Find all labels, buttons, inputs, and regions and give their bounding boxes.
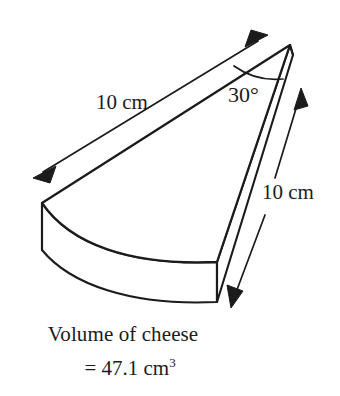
label-radius-10cm: 10 cm — [96, 92, 148, 113]
caption-volume-value: = 47.1 cm3 — [0, 356, 246, 381]
cheese-volume-figure: 10 cm 10 cm 30° Volume of cheese = 47.1 … — [0, 0, 340, 396]
radius-arrowhead-lower-left — [33, 166, 56, 183]
caption-volume-value-text: = 47.1 cm — [84, 356, 169, 380]
caption-volume-exponent: 3 — [169, 355, 176, 370]
depth-arrowhead-upper — [294, 88, 308, 110]
label-depth-10cm: 10 cm — [262, 182, 314, 203]
caption-volume-of-cheese: Volume of cheese — [0, 322, 246, 347]
radius-arrowhead-upper-right — [245, 30, 268, 47]
label-angle-30-degrees: 30° — [228, 84, 259, 106]
depth-arrowhead-lower — [227, 285, 243, 308]
depth-arrow-shaft-upper — [275, 102, 298, 178]
caption-block: Volume of cheese = 47.1 cm3 — [0, 322, 246, 381]
wedge-top-sector-face — [42, 45, 290, 262]
